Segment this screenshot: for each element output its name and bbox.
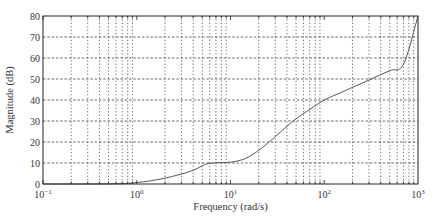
x-tick-label: 103: [411, 188, 425, 200]
y-tick-label: 80: [30, 11, 40, 22]
y-tick-label: 50: [30, 74, 40, 85]
y-tick-label: 20: [30, 137, 40, 148]
x-tick-label: 102: [318, 188, 332, 200]
x-tick-label: 101: [224, 188, 238, 200]
y-tick-label: 30: [30, 116, 40, 127]
y-tick-label: 60: [30, 53, 40, 64]
y-axis-label: Magnitude (dB): [4, 66, 16, 134]
chart-canvas: 0102030405060708010−1100101102103 Freque…: [0, 0, 437, 221]
bode-magnitude-chart: 0102030405060708010−1100101102103 Freque…: [0, 0, 437, 221]
axis-ticks: 0102030405060708010−1100101102103: [30, 11, 425, 201]
y-tick-label: 0: [35, 179, 40, 190]
y-tick-label: 10: [30, 158, 40, 169]
x-tick-label: 10−1: [34, 188, 52, 200]
x-tick-label: 100: [130, 188, 144, 200]
x-axis-label: Frequency (rad/s): [193, 201, 268, 213]
y-tick-label: 70: [30, 32, 40, 43]
y-tick-label: 40: [30, 95, 40, 106]
grid: [43, 16, 418, 184]
